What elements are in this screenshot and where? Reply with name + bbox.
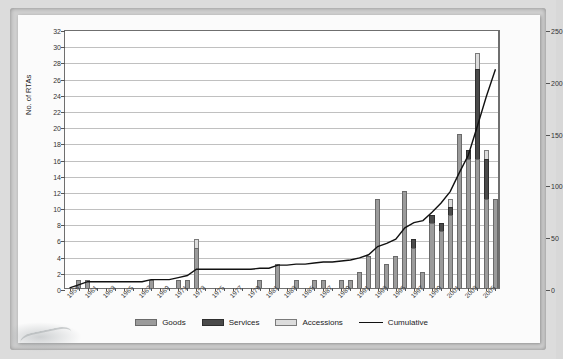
secondary-y-tick-mark — [546, 83, 550, 84]
cumulative-line — [70, 69, 496, 288]
secondary-y-tick-mark — [546, 290, 550, 291]
legend-item[interactable]: Services — [202, 318, 260, 327]
services-swatch-icon — [202, 319, 224, 326]
legend-label: Accessions — [302, 318, 342, 327]
legend-item[interactable]: Goods — [135, 318, 186, 327]
goods-swatch-icon — [135, 319, 157, 326]
chart-legend: GoodsServicesAccessionsCumulative — [64, 318, 499, 327]
y-tick-mark — [61, 290, 65, 291]
plot-area: 02468101214161820222426283032 0501001502… — [64, 30, 499, 289]
cumulative-line-icon — [359, 322, 383, 323]
legend-label: Cumulative — [388, 318, 428, 327]
legend-label: Goods — [162, 318, 186, 327]
secondary-y-tick-mark — [546, 186, 550, 187]
secondary-y-tick-mark — [546, 238, 550, 239]
accessions-swatch-icon — [275, 319, 297, 326]
cumulative-line-series — [65, 31, 500, 290]
legend-item[interactable]: Cumulative — [359, 318, 428, 327]
rta-chart: No. of RTAs 0246810121416182022242628303… — [18, 15, 540, 343]
secondary-y-axis — [499, 30, 500, 289]
secondary-y-tick-mark — [546, 31, 550, 32]
y-axis-label: No. of RTAs — [24, 75, 33, 115]
secondary-y-tick-mark — [546, 135, 550, 136]
legend-item[interactable]: Accessions — [275, 318, 342, 327]
legend-label: Services — [229, 318, 260, 327]
